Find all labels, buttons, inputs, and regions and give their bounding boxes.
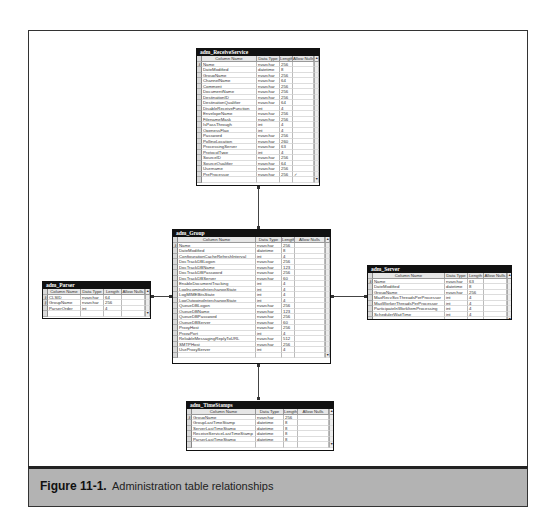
connector-end: [151, 295, 154, 298]
empty-cell[interactable]: [284, 442, 298, 448]
table-receive-service[interactable]: adm_ReceiveService Column NameData TypeL…: [196, 48, 320, 186]
table-server[interactable]: adm_Server Column NameData TypeLengthAll…: [367, 265, 512, 320]
empty-cell[interactable]: [256, 442, 284, 448]
column-grid: Column NameData TypeLengthAllow Nulls▲⚷N…: [197, 56, 319, 183]
empty-cell[interactable]: [81, 311, 104, 317]
connector-end: [257, 186, 260, 189]
empty-cell[interactable]: [192, 442, 256, 448]
connector-receiveservice-group: [258, 186, 259, 229]
figure-label: Figure 11-1.: [40, 479, 107, 493]
table-title: adm_Server: [368, 266, 511, 273]
connector-end: [257, 397, 260, 400]
table-title: adm_ReceiveService: [197, 49, 319, 56]
figure-caption: Figure 11-1. Administration table relati…: [28, 466, 528, 507]
column-grid: Column NameData TypeLengthAllow Nulls▲⚷C…: [43, 289, 150, 317]
column-grid: Column NameData TypeLengthAllow Nulls▲⚷G…: [187, 409, 333, 448]
scroll-down-icon[interactable]: ▼: [507, 317, 512, 320]
empty-cell[interactable]: [48, 311, 81, 317]
connector-timestamps-group: [258, 364, 259, 400]
table-parser[interactable]: adm_Parser Column NameData TypeLengthAll…: [42, 281, 151, 319]
empty-cell[interactable]: [256, 353, 282, 359]
empty-cell[interactable]: [202, 177, 257, 183]
empty-cell[interactable]: [445, 317, 468, 320]
empty-cell[interactable]: [468, 317, 484, 320]
table-timestamps[interactable]: adm_TimeStamps Column NameData TypeLengt…: [186, 401, 334, 451]
empty-cell[interactable]: [257, 177, 280, 183]
connector-server-group: [331, 296, 367, 297]
scroll-down-icon[interactable]: ▼: [314, 177, 319, 183]
table-title: adm_Group: [173, 230, 330, 237]
scroll-down-icon[interactable]: ▼: [325, 353, 330, 359]
column-grid: Column NameData TypeLengthAllow Nulls▲⚷N…: [368, 273, 511, 320]
empty-cell[interactable]: [484, 317, 507, 320]
empty-cell[interactable]: [282, 353, 295, 359]
connector-end: [331, 295, 334, 298]
table-title: adm_Parser: [43, 282, 150, 289]
empty-cell[interactable]: [104, 311, 122, 317]
empty-cell[interactable]: [373, 317, 445, 320]
connector-end: [257, 364, 260, 367]
table-group[interactable]: adm_Group Column NameData TypeLengthAllo…: [172, 229, 331, 364]
column-grid: Column NameData TypeLengthAllow Nulls▲⚷N…: [173, 237, 330, 358]
table-title: adm_TimeStamps: [187, 402, 333, 409]
figure-caption-text: Administration table relationships: [112, 480, 273, 492]
empty-cell[interactable]: [178, 353, 256, 359]
empty-cell[interactable]: [280, 177, 293, 183]
empty-cell[interactable]: [293, 177, 314, 183]
empty-cell[interactable]: [295, 353, 325, 359]
empty-cell[interactable]: [298, 442, 329, 448]
empty-cell[interactable]: [122, 311, 145, 317]
scroll-down-icon[interactable]: ▼: [329, 442, 334, 448]
scroll-down-icon[interactable]: ▼: [145, 311, 150, 317]
